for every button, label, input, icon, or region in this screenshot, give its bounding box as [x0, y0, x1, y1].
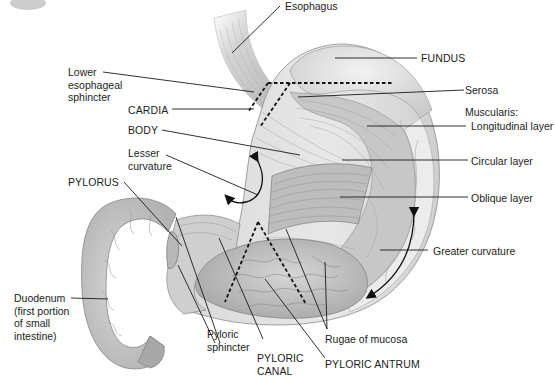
label-lesser-curvature: Lesser curvature: [128, 147, 172, 172]
label-duodenum: Duodenum (first portion of small intesti…: [14, 292, 69, 342]
label-muscularis: Muscularis:: [465, 106, 518, 119]
stomach-illustration: [0, 0, 555, 382]
label-body: BODY: [128, 124, 158, 137]
label-greater-curvature: Greater curvature: [433, 245, 515, 258]
page-artifact: [10, 0, 46, 10]
label-esophagus: Esophagus: [285, 0, 338, 13]
label-longitudinal-layer: Longitudinal layer: [471, 120, 553, 133]
label-cardia: CARDIA: [128, 104, 168, 117]
label-pyloric-canal: PYLORIC CANAL: [257, 352, 304, 377]
label-pylorus: PYLORUS: [68, 176, 119, 189]
label-pyloric-sphincter: Pyloric sphincter: [207, 328, 250, 353]
label-lower-esophageal-sphincter: Lower esophageal sphincter: [68, 66, 122, 104]
label-fundus: FUNDUS: [421, 52, 465, 65]
stomach-diagram: Esophagus FUNDUS Lower esophageal sphinc…: [0, 0, 555, 382]
label-serosa: Serosa: [465, 84, 498, 97]
label-pyloric-antrum: PYLORIC ANTRUM: [325, 358, 420, 371]
label-rugae-of-mucosa: Rugae of mucosa: [325, 333, 407, 346]
label-oblique-layer: Oblique layer: [471, 192, 533, 205]
label-circular-layer: Circular layer: [471, 155, 533, 168]
